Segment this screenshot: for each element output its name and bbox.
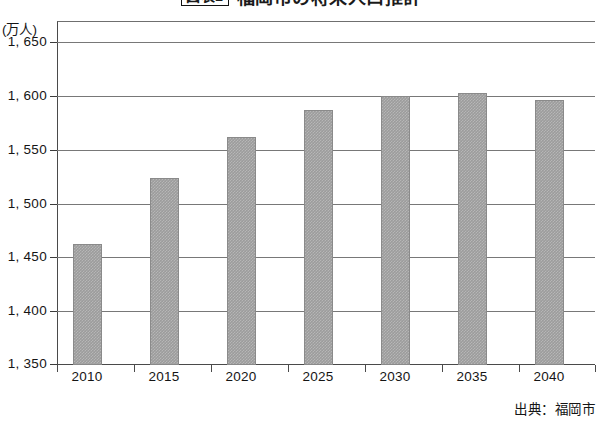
bar-2030[interactable]: [381, 96, 410, 365]
x-axis-label-2010: 2010: [49, 369, 125, 384]
x-axis-label-2035: 2035: [434, 369, 510, 384]
bar-2040[interactable]: [535, 100, 564, 365]
y-tick-1650: [50, 42, 57, 43]
bar-2010[interactable]: [73, 244, 102, 365]
source-note: 出典：福岡市: [514, 398, 595, 418]
bar-2025[interactable]: [304, 110, 333, 365]
bar-2020[interactable]: [227, 137, 256, 365]
y-tick-1500: [50, 204, 57, 205]
y-axis-label-1500: 1, 500: [0, 196, 47, 211]
gridline-1650: [57, 42, 595, 43]
y-tick-1400: [50, 311, 57, 312]
y-tick-1350: [50, 364, 57, 365]
y-axis-label-1650: 1, 650: [0, 34, 47, 49]
x-axis-label-2025: 2025: [280, 369, 356, 384]
y-tick-1550: [50, 150, 57, 151]
y-tick-1450: [50, 257, 57, 258]
bar-2015[interactable]: [150, 178, 179, 365]
x-tick-end: [595, 365, 596, 372]
y-axis-label-1350: 1, 350: [0, 356, 47, 371]
bar-chart: (万人) 1, 650 1, 600 1, 550 1, 500 1, 450 …: [0, 0, 603, 428]
y-axis-label-1400: 1, 400: [0, 303, 47, 318]
x-axis-label-2020: 2020: [203, 369, 279, 384]
bar-2035[interactable]: [458, 93, 487, 365]
y-axis-label-1450: 1, 450: [0, 249, 47, 264]
gridline-1600: [57, 96, 595, 97]
y-axis-label-1600: 1, 600: [0, 88, 47, 103]
x-axis-label-2040: 2040: [511, 369, 587, 384]
y-tick-1600: [50, 96, 57, 97]
x-axis-label-2030: 2030: [357, 369, 433, 384]
y-axis-label-1550: 1, 550: [0, 142, 47, 157]
x-axis-label-2015: 2015: [126, 369, 202, 384]
